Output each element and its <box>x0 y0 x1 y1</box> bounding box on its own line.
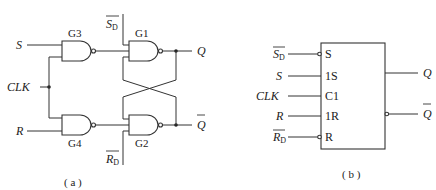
input-label-b-rd: RD <box>272 130 286 145</box>
nand-gate-g3 <box>62 41 96 61</box>
input-label-b-r: R <box>275 109 284 123</box>
output-label-q: Q <box>197 44 206 58</box>
flip-flop-diagram: G3 G1 G4 G2 S CLK R <box>0 0 436 190</box>
output-label-b-q: Q <box>423 66 432 80</box>
inversion-bubble-qbar <box>385 112 389 116</box>
pin-label-1r: 1R <box>325 109 339 123</box>
nand-gate-g2 <box>129 115 163 135</box>
circuit-a: G3 G1 G4 G2 S CLK R <box>7 14 206 189</box>
gate-label-g4: G4 <box>68 137 82 149</box>
wire-clk-g4 <box>49 87 62 118</box>
input-label-b-sd: SD <box>273 47 285 62</box>
inversion-bubble-rd <box>318 135 322 139</box>
gate-label-g1: G1 <box>135 27 148 39</box>
input-label-sd: SD <box>106 17 118 32</box>
wire-clk-g3 <box>49 57 62 87</box>
output-label-qbar: Q <box>197 118 206 132</box>
nand-gate-g4 <box>62 115 96 135</box>
input-label-s: S <box>16 38 22 52</box>
pin-label-c1: C1 <box>325 89 339 103</box>
input-label-r: R <box>15 124 24 138</box>
pin-label-1s: 1S <box>325 69 338 83</box>
input-label-b-clk: CLK <box>256 89 280 103</box>
caption-a: ( a ) <box>64 176 82 189</box>
nand-gate-g1 <box>129 41 163 61</box>
input-label-clk: CLK <box>7 80 31 94</box>
pin-label-s: S <box>325 47 332 61</box>
caption-b: ( b ) <box>342 168 361 181</box>
input-label-rd: RD <box>105 152 119 167</box>
symbol-b: SD S S 1S CLK C1 R 1R RD R Q Q ( b ) <box>256 43 432 181</box>
gate-label-g3: G3 <box>68 27 82 39</box>
input-label-b-s: S <box>276 69 282 83</box>
pin-label-r: R <box>325 130 333 144</box>
gate-label-g2: G2 <box>135 137 148 149</box>
inversion-bubble-sd <box>318 52 322 56</box>
wire-rd <box>123 131 129 165</box>
output-label-b-qbar: Q <box>423 107 432 121</box>
wire-sd <box>123 14 129 45</box>
